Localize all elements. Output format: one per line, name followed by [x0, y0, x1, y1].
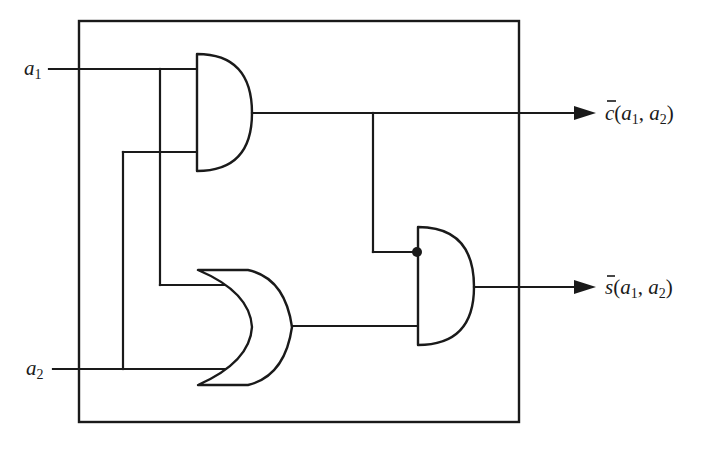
circuit-enclosure: [79, 21, 519, 422]
arrowhead-sum: [574, 280, 596, 294]
and-gate-sum: [418, 227, 474, 345]
label-output-carry: c(a1, a2): [605, 101, 674, 127]
label-input-a2: a2: [26, 356, 44, 382]
and-gate-carry: [197, 54, 252, 171]
label-output-sum: s(a1, a2): [605, 275, 673, 301]
logic-circuit-diagram: a1 a2 c(a1, a2) s(a1, a2): [0, 0, 714, 453]
arrowhead-carry: [574, 106, 596, 120]
label-input-a1: a1: [24, 56, 42, 82]
or-gate: [198, 270, 292, 385]
inversion-dot: [412, 247, 422, 257]
